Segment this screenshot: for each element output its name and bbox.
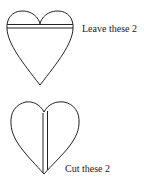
top-heart [7,11,73,85]
cut-label: Cut these 2 [65,164,110,174]
leave-label: Leave these 2 [82,24,137,34]
